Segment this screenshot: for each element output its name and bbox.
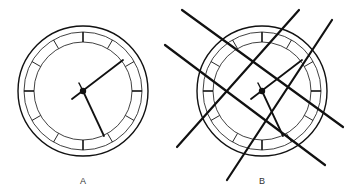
hour-tick-2: [125, 62, 134, 67]
hour-tick-2: [304, 62, 313, 67]
hour-tick-10: [32, 62, 41, 67]
hour-tick-7: [54, 133, 59, 142]
panel-label-a: A: [80, 176, 86, 186]
hour-tick-11: [54, 40, 59, 49]
hour-tick-7: [233, 133, 238, 142]
hour-tick-8: [32, 116, 41, 121]
obstruction-line-4: [227, 20, 332, 180]
hour-tick-4: [125, 116, 134, 121]
hour-hand: [83, 91, 104, 136]
hour-tick-5: [108, 133, 113, 142]
hour-tick-1: [108, 40, 113, 49]
hour-tick-4: [304, 116, 313, 121]
center-pivot: [259, 88, 265, 94]
figure-canvas: A B: [0, 0, 359, 195]
minute-hand: [72, 60, 123, 99]
hour-tick-10: [211, 62, 220, 67]
obstruction-line-2: [165, 45, 325, 165]
clock-a: [18, 26, 148, 156]
panel-label-b: B: [259, 176, 265, 186]
hour-tick-8: [211, 116, 220, 121]
clock-b: [197, 26, 327, 156]
hour-tick-1: [287, 40, 292, 49]
obstruction-lines: [165, 10, 343, 180]
center-pivot: [80, 88, 86, 94]
